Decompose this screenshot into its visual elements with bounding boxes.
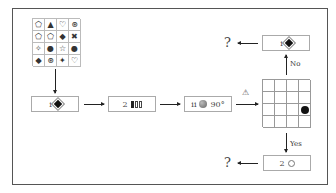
grid-cell: [287, 92, 299, 104]
symbol-cell: ⬠: [45, 31, 57, 43]
diamond-filled-icon: [285, 39, 293, 47]
symbol-cell: ♡: [69, 55, 81, 67]
step2-box: 2: [108, 96, 156, 112]
step2-index: 2: [122, 100, 127, 109]
grid-cell: [299, 116, 311, 128]
grid-cell: [287, 104, 299, 116]
symbol-grid: ⬠▲♡⊛⬠⬠◆✖✧●☆●◆⊛✦♡: [32, 18, 80, 66]
no-box-index: i: [280, 39, 283, 48]
step3-index: ii: [191, 100, 196, 109]
step3-rotation: 90°: [210, 100, 224, 109]
grid-cell: [287, 80, 299, 92]
bars-icon: [131, 101, 142, 108]
symbol-cell: ⊛: [69, 19, 81, 31]
symbol-cell: ✖: [69, 31, 81, 43]
arrow-step2-to-step3: [160, 104, 180, 105]
warning-icon: ⚠: [242, 88, 249, 97]
arrow-down-yes: [286, 133, 287, 152]
arrow-step3-to-grid: [236, 104, 258, 105]
grid-cell: [275, 80, 287, 92]
arrow-step1-to-step2: [84, 104, 104, 105]
grid-cell: [299, 80, 311, 92]
dot-marker: [301, 106, 309, 114]
grid-cell: [299, 104, 311, 116]
grid-cell: [263, 116, 275, 128]
grid-cell: [275, 92, 287, 104]
step1-box: i: [31, 96, 79, 112]
grid-cell: [275, 116, 287, 128]
no-result-box: i: [262, 35, 310, 51]
grid-cell: [263, 104, 275, 116]
yes-result-box: 2: [263, 155, 311, 171]
yes-label: Yes: [290, 140, 302, 148]
symbol-cell: ⊛: [45, 55, 57, 67]
grid-cell: [263, 80, 275, 92]
sphere-icon: [199, 100, 207, 108]
symbol-cell: ✦: [57, 55, 69, 67]
no-label: No: [290, 60, 300, 68]
grid-cell: [275, 104, 287, 116]
symbol-cell: ✧: [33, 43, 45, 55]
arrow-left-no: [238, 43, 258, 44]
circle-outline-icon: [288, 160, 295, 167]
symbol-cell: ▲: [45, 19, 57, 31]
symbol-cell: ●: [45, 43, 57, 55]
symbol-cell: ⬠: [33, 19, 45, 31]
grid-cell: [299, 92, 311, 104]
step3-box: ii 90°: [184, 96, 232, 112]
yes-box-index: 2: [279, 159, 284, 168]
symbol-cell: ◆: [57, 31, 69, 43]
symbol-cell: ☆: [57, 43, 69, 55]
arrow-down-grid-to-step1: [55, 69, 56, 93]
symbol-cell: ●: [69, 43, 81, 55]
arrow-left-yes: [238, 163, 258, 164]
grid-cell: [263, 92, 275, 104]
symbol-cell: ◆: [33, 55, 45, 67]
no-result-question-mark: ?: [224, 35, 231, 50]
yes-result-question-mark: ?: [224, 155, 231, 170]
symbol-cell: ⬠: [33, 31, 45, 43]
arrow-up-no: [286, 55, 287, 75]
step1-index: i: [49, 100, 52, 109]
grid-cell: [287, 116, 299, 128]
symbol-cell: ♡: [57, 19, 69, 31]
position-grid: [262, 79, 310, 127]
diamond-filled-icon: [54, 100, 62, 108]
